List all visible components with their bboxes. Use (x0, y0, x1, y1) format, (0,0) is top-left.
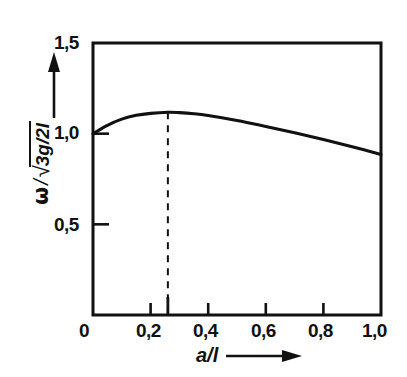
x-tick-label-0-4: 0,4 (193, 320, 218, 342)
x-tick-label-0-2: 0,2 (136, 320, 161, 342)
y-axis-label-radicand: 3g/2l (29, 121, 54, 167)
x-axis-label: a/l (196, 344, 304, 367)
x-tick-label-0-8: 0,8 (308, 320, 333, 342)
plot-frame (93, 43, 381, 315)
x-tick-label-0: 0 (79, 320, 89, 342)
x-tick-label-1-0: 1,0 (362, 320, 387, 342)
y-axis-label-slash: / (30, 177, 53, 187)
x-tick-label-0-6: 0,6 (251, 320, 276, 342)
y-tick-label-1-0: 1,0 (54, 122, 79, 144)
chart-figure: 1,5 1,0 0,5 0 0,2 0,4 0,6 0,8 1,0 ω / √ … (0, 0, 407, 377)
y-axis-label-omega: ω (29, 187, 53, 205)
radical-icon: √ (31, 165, 53, 177)
y-tick-label-0-5: 0,5 (54, 214, 79, 236)
x-axis-label-text: a/l (196, 344, 218, 367)
y-axis-label: ω / √ 3g/2l (26, 88, 56, 238)
x-axis-arrow-icon (226, 348, 304, 364)
